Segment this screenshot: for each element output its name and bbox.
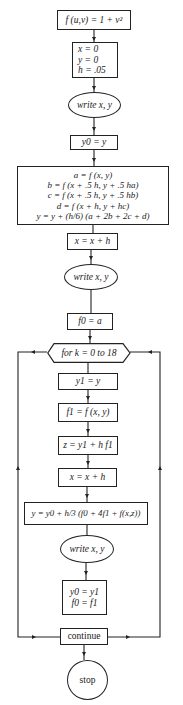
save-y1-text: y1 = y [76,376,100,387]
loop-label-wrap: for k = 0 to 18 [47,343,131,363]
advance-x-text: x = x + h [70,472,106,483]
advance-x-box-1: x = x + h [67,233,118,250]
define-function-box: f (u,v) = 1 + v² [57,10,131,30]
save-y0-text: y0 = y [82,137,106,148]
init-line: y = 0 [78,55,98,66]
shift-line: y0 = y1 [70,587,99,598]
write-oval-2: write x, y [64,264,118,290]
runge-kutta-box: a = f (x, y) b = f (x + .5 h, y + .5 ha)… [17,166,169,225]
corrector-box: y = y0 + h/3 (f0 + 4f1 + f(x,z)) [24,502,148,525]
save-y1-box: y1 = y [58,373,118,390]
write-text: write x, y [73,272,108,283]
write-text: write x, y [69,544,104,555]
save-y0-box: y0 = y [70,135,118,150]
loop-label: for k = 0 to 18 [61,348,116,358]
rk-line: b = f (x + .5 h, y + .5 ha) [48,180,139,190]
stop-text: stop [80,675,96,686]
shift-line: f0 = f1 [72,598,98,609]
shift-box: y0 = y1 f0 = f1 [62,580,107,615]
advance-x-text: x = x + h [75,236,111,247]
predict-z-box: z = y1 + h f1 [58,436,118,455]
init-box: x = 0 y = 0 h = .05 [72,42,118,78]
rk-line: a = f (x, y) [74,170,112,180]
rk-line: c = f (x + .5 h, y + .5 hb) [48,190,138,200]
corrector-text: y = y0 + h/3 (f0 + 4f1 + f(x,z)) [32,508,141,518]
rk-line: d = f (x + h, y + hc) [57,201,129,211]
advance-x-box-2: x = x + h [58,468,117,487]
continue-text: continue [68,631,101,642]
init-line: h = .05 [78,65,106,76]
write-oval-3: write x, y [60,535,114,563]
predict-z-text: z = y1 + h f1 [63,440,113,451]
set-f0-box: f0 = a [67,313,113,330]
init-line: x = 0 [78,44,98,55]
stop-oval: stop [67,660,108,700]
eval-f1-text: f1 = f (x, y) [66,407,109,418]
set-f0-text: f0 = a [78,316,101,327]
write-text: write x, y [77,100,112,111]
eval-f1-box: f1 = f (x, y) [58,403,118,422]
rk-line: y = y + (h/6) (a + 2b + 2c + d) [36,211,149,221]
define-function-text: f (u,v) = 1 + v² [66,15,123,26]
write-oval-1: write x, y [68,92,121,118]
continue-box: continue [60,628,108,645]
